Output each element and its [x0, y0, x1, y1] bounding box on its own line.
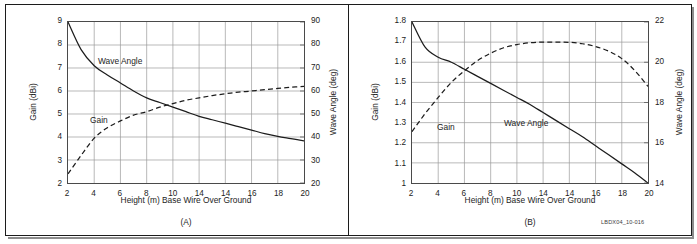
x-axis-title-a: Height (m) Base Wire Over Ground: [121, 196, 252, 204]
y-tick-right: 16: [655, 139, 677, 147]
chart-panel-b: 11.11.21.31.41.51.61.71.8 1416182022 246…: [349, 4, 692, 236]
y-tick-right: 90: [311, 17, 333, 25]
plot-area-a: [67, 21, 305, 184]
y-tick-right: 20: [655, 58, 677, 66]
chart-panel-a: 23456789 2030405060708090 24681014141618…: [5, 4, 348, 236]
frame-shadow-right: [692, 7, 694, 239]
plot-svg-b: [412, 22, 648, 183]
gridlines-a: [68, 22, 304, 183]
series-label-gain-a: Gain: [90, 116, 108, 124]
y-tick-right: 22: [655, 17, 677, 25]
y-tick-left: 1.7: [379, 37, 406, 45]
x-tick: 2: [65, 190, 70, 198]
panel-caption-b: (B): [524, 218, 535, 226]
y-tick-left: 6: [35, 87, 62, 95]
y-tick-left: 1.8: [379, 17, 406, 25]
plot-svg-a: [68, 22, 304, 183]
x-tick: 20: [644, 190, 653, 198]
y-tick-left: 1.2: [379, 139, 406, 147]
y-tick-left: 7: [35, 63, 62, 71]
figure-code-label: LBDX04_10-016: [601, 220, 644, 226]
y-tick-left: 4: [35, 133, 62, 141]
y-tick-left: 8: [35, 40, 62, 48]
y-tick-left: 5: [35, 110, 62, 118]
y-tick-left: 1.1: [379, 160, 406, 168]
x-tick: 2: [409, 190, 414, 198]
x-axis-title-b: Height (m) Base Wire Over Ground: [465, 196, 596, 204]
x-tick: 18: [618, 190, 627, 198]
y-axis-left-title-b: Gain (dBi): [371, 57, 379, 147]
gridlines-b: [412, 22, 648, 183]
y-tick-left: 1: [379, 180, 406, 188]
panel-caption-a: (A): [180, 218, 191, 226]
y-tick-left: 3: [35, 157, 62, 165]
series-label-gain-b: Gain: [437, 123, 455, 131]
curve-gain-a: [68, 86, 304, 173]
y-axis-right-title-b: Wave Angle (deg): [675, 47, 683, 157]
right-axis-minor-ticks: [644, 22, 648, 183]
series-label-wave-angle-a: Wave Angle: [98, 57, 142, 65]
y-tick-right: 14: [655, 180, 677, 188]
right-axis-minor-ticks: [300, 22, 304, 183]
y-tick-left: 2: [35, 180, 62, 188]
x-tick: 4: [91, 190, 96, 198]
y-tick-left: 1.6: [379, 58, 406, 66]
y-tick-left: 1.3: [379, 119, 406, 127]
y-tick-left: 1.5: [379, 78, 406, 86]
y-tick-left: 9: [35, 17, 62, 25]
plot-area-b: [411, 21, 649, 184]
frame-shadow-bottom: [8, 237, 694, 239]
y-axis-left-title-a: Gain (dBi): [29, 57, 37, 147]
x-tick: 18: [274, 190, 283, 198]
series-label-wave-angle-b: Wave Angle: [504, 119, 548, 127]
x-tick: 4: [435, 190, 440, 198]
x-tick: 20: [300, 190, 309, 198]
y-tick-right: 30: [311, 157, 333, 165]
y-axis-right-title-a: Wave Angle (deg): [329, 47, 337, 157]
y-tick-right: 20: [311, 180, 333, 188]
y-tick-left: 1.4: [379, 98, 406, 106]
figure-container: 23456789 2030405060708090 24681014141618…: [0, 0, 697, 244]
